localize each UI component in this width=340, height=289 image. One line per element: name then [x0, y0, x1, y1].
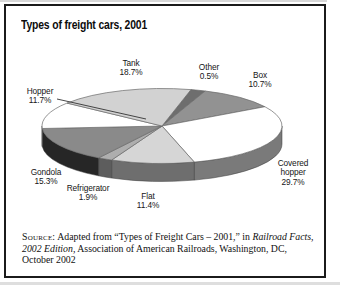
source-label: Source: [22, 231, 55, 242]
scan-artifact-bottom [0, 282, 340, 285]
report-page: Types of freight cars, 2001 Other0.5%Box… [0, 0, 340, 289]
source-note: Source: Adapted from “Types of Freight C… [22, 231, 316, 266]
source-segment-normal-1: Adapted from “Types of Freight Cars – 20… [55, 231, 252, 242]
pie-side-refrigerator [99, 158, 112, 178]
